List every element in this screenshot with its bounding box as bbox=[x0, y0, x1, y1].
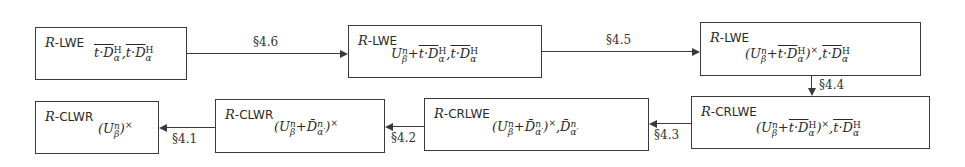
edge-label: §4.2 bbox=[391, 131, 416, 145]
edge-line bbox=[393, 126, 424, 127]
ring-symbol: R bbox=[225, 107, 235, 122]
arrow-left-icon bbox=[385, 123, 393, 131]
term-tD: t·DHα bbox=[94, 45, 122, 60]
node-label: R-LWE bbox=[710, 30, 749, 45]
edge-label: §4.1 bbox=[172, 132, 197, 146]
node-subscript: (Unβ+t·DHα)×,t·DHα bbox=[745, 45, 850, 63]
ring-symbol: R bbox=[710, 30, 720, 45]
arrow-left-icon bbox=[649, 120, 657, 128]
edge-label: §4.5 bbox=[606, 33, 631, 47]
node-subscript: (Unβ+t·DHα)×,t·DHα bbox=[756, 119, 861, 137]
node-rlwe-units-td: R-LWE (Unβ+t·DHα)×,t·DHα bbox=[700, 22, 921, 76]
term-tD: t·DHα bbox=[789, 120, 817, 135]
arrow-left-icon bbox=[159, 124, 167, 132]
node-subscript: Unβ+t·DHα,t·DHα bbox=[391, 46, 478, 63]
term-tD: t·DHα bbox=[419, 46, 447, 61]
problem-name: -LWE bbox=[720, 31, 749, 45]
ring-symbol: R bbox=[434, 106, 444, 121]
edge-line bbox=[811, 76, 812, 88]
node-label: R-CLWR bbox=[225, 107, 273, 122]
term-tD: t·DHα bbox=[822, 46, 850, 61]
edge-line bbox=[187, 53, 340, 54]
term-tD: t·DHα bbox=[450, 46, 478, 61]
arrow-down-icon bbox=[808, 88, 816, 96]
arrow-right-icon bbox=[692, 48, 700, 56]
problem-name: -LWE bbox=[55, 36, 84, 50]
node-subscript: t·DHα,t·DHα bbox=[94, 45, 153, 62]
arrow-right-icon bbox=[340, 50, 348, 58]
node-label: R-CRLWE bbox=[701, 104, 757, 119]
ring-symbol: R bbox=[358, 33, 368, 48]
edge-label: §4.3 bbox=[654, 128, 679, 142]
ring-symbol: R bbox=[45, 35, 55, 50]
node-rlwe-td-td: R-LWE t·DHα,t·DHα bbox=[35, 27, 187, 80]
node-subscript: (Unβ+D̄nα′)× bbox=[274, 118, 338, 136]
node-label: R-CRLWE bbox=[434, 106, 490, 121]
node-crlwe-units-td: R-CRLWE (Unβ+t·DHα)×,t·DHα bbox=[691, 96, 930, 149]
node-clwr-units: R-CLWR (Unβ)× bbox=[35, 101, 159, 154]
node-subscript: (Unβ)× bbox=[98, 120, 132, 138]
problem-name: -CLWR bbox=[55, 110, 94, 124]
problem-name: -CLWR bbox=[235, 108, 274, 122]
edge-label: §4.6 bbox=[253, 35, 278, 49]
node-subscript: (Unβ+D̄nα′)×,D̄nα′ bbox=[492, 118, 579, 136]
problem-name: -CRLWE bbox=[444, 107, 490, 121]
term-tD: t·DHα bbox=[778, 46, 806, 61]
edge-label: §4.4 bbox=[819, 78, 844, 92]
term-tD: t·DHα bbox=[833, 120, 861, 135]
ring-symbol: R bbox=[701, 104, 711, 119]
problem-name: -CRLWE bbox=[711, 105, 757, 119]
edge-line bbox=[167, 127, 215, 128]
edge-line bbox=[542, 51, 692, 52]
node-crlwe-units-dbar: R-CRLWE (Unβ+D̄nα′)×,D̄nα′ bbox=[424, 98, 649, 151]
edge-line bbox=[657, 123, 691, 124]
ring-symbol: R bbox=[45, 109, 55, 124]
node-label: R-CLWR bbox=[45, 109, 93, 124]
term-tD: t·DHα bbox=[126, 45, 154, 60]
node-label: R-LWE bbox=[45, 35, 84, 50]
node-rlwe-u-plus-td-td: R-LWE Unβ+t·DHα,t·DHα bbox=[348, 25, 542, 78]
node-clwr-units-dbar: R-CLWR (Unβ+D̄nα′)× bbox=[215, 99, 385, 153]
